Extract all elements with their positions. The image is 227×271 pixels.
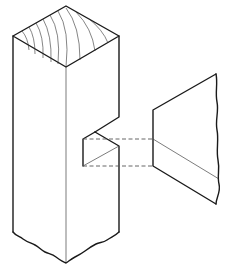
hidden-lines bbox=[83, 139, 153, 166]
tenon-piece bbox=[153, 74, 219, 204]
diagram-canvas: Isometric drawing of a post with a notch… bbox=[0, 0, 227, 271]
tenon-broken-end bbox=[216, 74, 219, 204]
post-right-edge-upper bbox=[95, 36, 119, 132]
tenon-outline bbox=[153, 74, 216, 204]
joinery-drawing bbox=[0, 0, 227, 271]
post-right-edge-lower bbox=[95, 132, 119, 232]
notch bbox=[83, 132, 119, 166]
notch-diagonal bbox=[83, 146, 119, 166]
notch-outline bbox=[83, 132, 95, 166]
tenon-diagonal bbox=[153, 139, 219, 179]
end-grain-icon bbox=[22, 8, 108, 67]
post bbox=[13, 6, 119, 263]
